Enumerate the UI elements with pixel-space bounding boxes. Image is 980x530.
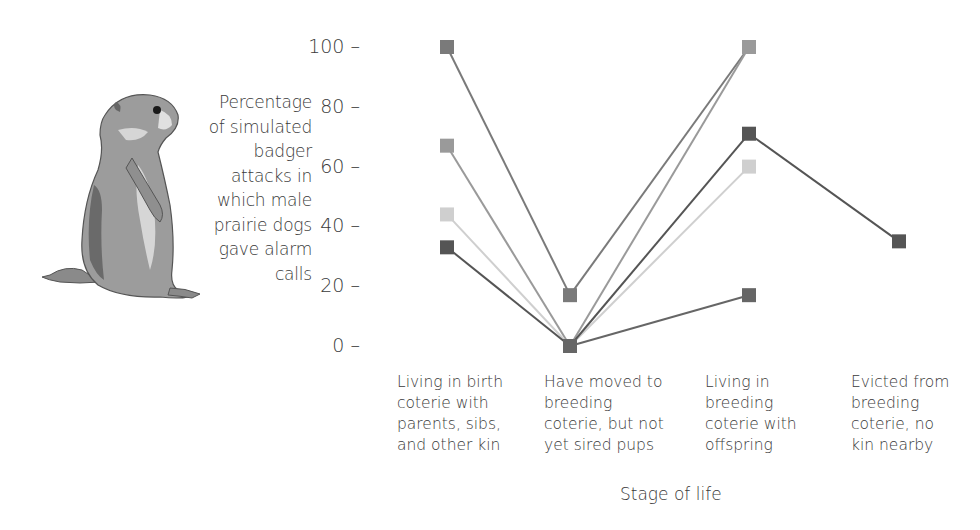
data-point-marker bbox=[563, 339, 577, 353]
data-point-marker bbox=[440, 207, 454, 221]
data-point-marker bbox=[563, 288, 577, 302]
chart-figure: Percentage of simulated badger attacks i… bbox=[0, 0, 980, 530]
series-line bbox=[570, 47, 749, 295]
category-line: coterie with bbox=[705, 414, 797, 435]
data-point-marker bbox=[440, 240, 454, 254]
category-line: Living in birth bbox=[397, 372, 503, 393]
data-point-marker bbox=[742, 40, 756, 54]
data-point-marker bbox=[440, 40, 454, 54]
series-line bbox=[749, 134, 899, 242]
data-point-marker bbox=[742, 288, 756, 302]
category-line: Living in bbox=[705, 372, 797, 393]
series-line bbox=[447, 247, 570, 346]
category-label: Living in breeding coterie with offsprin… bbox=[705, 372, 797, 456]
category-line: and other kin bbox=[397, 435, 503, 456]
category-label: Have moved to breeding coterie, but not … bbox=[544, 372, 664, 456]
category-line: coterie, no bbox=[851, 414, 949, 435]
category-label: Evicted from breeding coterie, no kin ne… bbox=[851, 372, 949, 456]
data-point-marker bbox=[892, 234, 906, 248]
series-line bbox=[447, 47, 570, 295]
series-line bbox=[570, 47, 749, 346]
category-line: breeding bbox=[544, 393, 664, 414]
category-line: Evicted from bbox=[851, 372, 949, 393]
category-line: offspring bbox=[705, 435, 797, 456]
category-line: coterie with bbox=[397, 393, 503, 414]
category-label: Living in birth coterie with parents, si… bbox=[397, 372, 503, 456]
category-line: yet sired pups bbox=[544, 435, 664, 456]
category-line: coterie, but not bbox=[544, 414, 664, 435]
category-line: kin nearby bbox=[851, 435, 949, 456]
category-line: breeding bbox=[851, 393, 949, 414]
series-line bbox=[447, 214, 570, 346]
data-point-marker bbox=[440, 139, 454, 153]
category-line: breeding bbox=[705, 393, 797, 414]
category-line: Have moved to bbox=[544, 372, 664, 393]
series-line bbox=[447, 146, 570, 346]
data-point-marker bbox=[742, 127, 756, 141]
category-line: parents, sibs, bbox=[397, 414, 503, 435]
series-line bbox=[570, 134, 749, 346]
x-axis-label: Stage of life bbox=[620, 484, 722, 504]
data-point-marker bbox=[742, 160, 756, 174]
